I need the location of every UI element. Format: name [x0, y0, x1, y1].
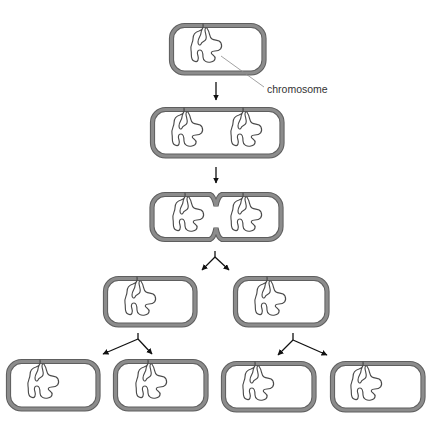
daughter-cell-right [236, 277, 328, 325]
granddaughter-cell-1 [9, 360, 99, 409]
cell-wall [333, 364, 424, 411]
daughter-cell-left [106, 277, 196, 325]
split-arrow-icon [278, 333, 327, 355]
cell-wall [116, 362, 207, 410]
dividing-cell [152, 193, 281, 240]
cell-wall [224, 364, 315, 411]
cell-wall [172, 26, 265, 74]
cell-wall [236, 279, 328, 326]
split-arrow-icon [103, 333, 152, 354]
binary-fission-diagram [0, 0, 445, 435]
granddaughter-cell-2 [116, 360, 207, 409]
split-arrow-icon [202, 251, 229, 270]
cell-replicated-chromosome [153, 108, 283, 156]
parent-cell [172, 24, 265, 73]
granddaughter-cell-3 [224, 362, 315, 410]
cell-wall [106, 279, 196, 326]
granddaughter-cell-4 [333, 362, 424, 410]
cell-wall [9, 362, 99, 410]
chromosome-label: chromosome [267, 82, 328, 96]
